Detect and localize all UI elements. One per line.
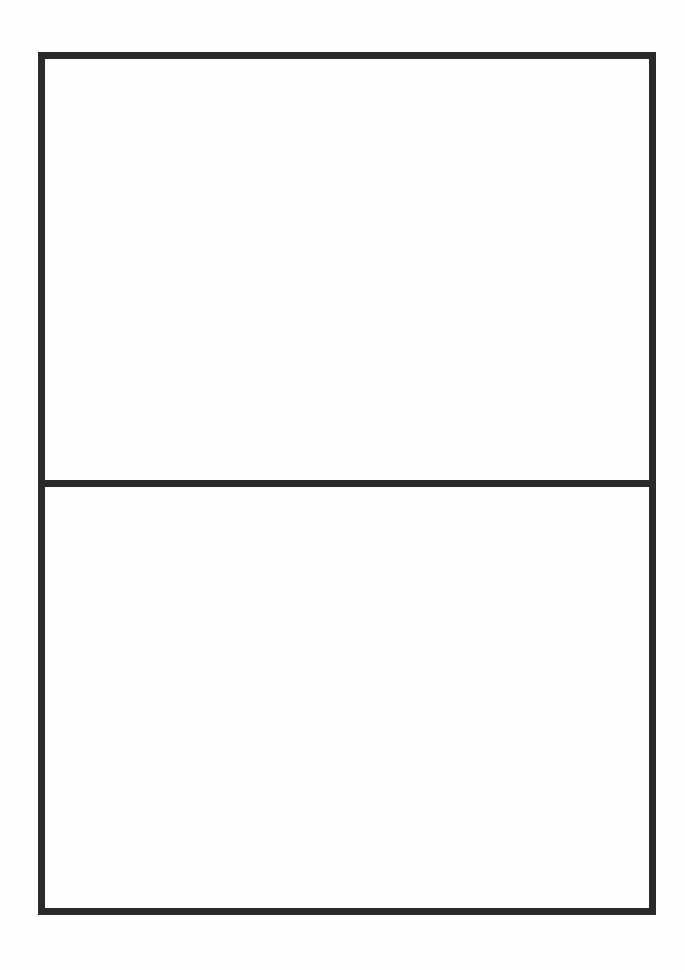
bottom-panel (45, 487, 649, 908)
document-page (0, 0, 685, 971)
panel-divider (45, 480, 649, 487)
top-panel (45, 59, 649, 480)
outer-frame (38, 52, 656, 915)
